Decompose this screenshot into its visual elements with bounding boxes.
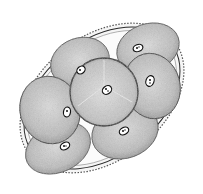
egg-drawing: [0, 0, 203, 194]
egg-illustration: [0, 0, 203, 194]
